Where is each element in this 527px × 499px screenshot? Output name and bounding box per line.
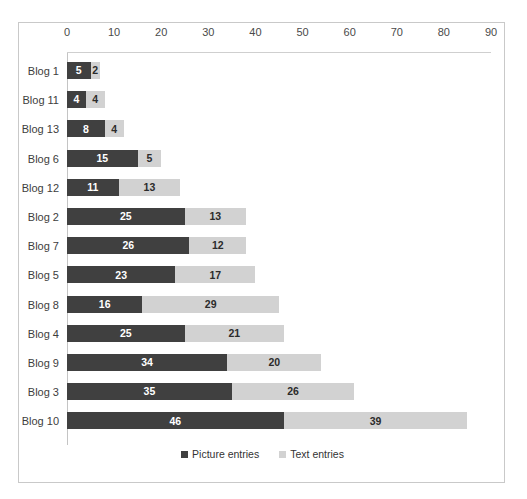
bar-row[interactable]: 2521 [67,325,284,342]
bar-row[interactable]: 44 [67,91,105,108]
bar-segment[interactable]: 21 [185,325,284,342]
bar-segment[interactable]: 16 [67,296,142,313]
bar-row[interactable]: 2513 [67,208,246,225]
bar-value-label: 15 [96,153,108,164]
axis-tick-label: 70 [391,26,403,38]
axis-tick-label: 30 [202,26,214,38]
legend-swatch-icon [279,451,286,458]
bar-value-label: 20 [268,357,280,368]
legend-swatch-icon [181,451,188,458]
bar-value-label: 13 [210,211,222,222]
bar-segment[interactable]: 20 [227,354,321,371]
bar-segment[interactable]: 26 [232,383,354,400]
bar-row[interactable]: 52 [67,62,100,79]
bar-value-label: 5 [76,65,82,76]
bar-segment[interactable]: 29 [142,296,279,313]
bar-segment[interactable]: 12 [189,237,246,254]
category-label: Blog 8 [28,299,59,311]
category-label: Blog 10 [22,415,59,427]
bar-value-label: 4 [92,94,98,105]
bar-row[interactable]: 3420 [67,354,321,371]
bar-value-label: 25 [120,211,132,222]
category-label: Blog 3 [28,386,59,398]
bar-value-label: 23 [115,270,127,281]
axis-tick-label: 90 [485,26,497,38]
value-axis: 0102030405060708090 [19,23,506,53]
bar-row[interactable]: 2317 [67,266,255,283]
bar-segment[interactable]: 5 [67,62,91,79]
axis-tick-label: 40 [249,26,261,38]
axis-tick-label: 20 [155,26,167,38]
axis-tick-label: 50 [296,26,308,38]
bar-segment[interactable]: 23 [67,266,175,283]
axis-tick-label: 60 [344,26,356,38]
category-label: Blog 4 [28,328,59,340]
category-label: Blog 6 [28,153,59,165]
bar-segment[interactable]: 26 [67,237,189,254]
bar-segment[interactable]: 8 [67,120,105,137]
category-label: Blog 9 [28,357,59,369]
legend-item[interactable]: Text entries [279,448,344,460]
bar-segment[interactable]: 2 [91,62,100,79]
bar-segment[interactable]: 13 [119,179,180,196]
bar-row[interactable]: 155 [67,150,161,167]
bar-value-label: 26 [287,386,299,397]
bar-value-label: 21 [228,328,240,339]
bar-segment[interactable]: 11 [67,179,119,196]
bar-value-label: 13 [144,182,156,193]
bar-value-label: 35 [144,386,156,397]
bar-value-label: 17 [210,270,222,281]
bar-value-label: 25 [120,328,132,339]
bar-row[interactable]: 1629 [67,296,279,313]
axis-tick-label: 10 [108,26,120,38]
plot-area: 5244841551113251326122317162925213420352… [67,53,491,453]
chart-frame: 0102030405060708090 Blog 1Blog 11Blog 13… [18,22,505,483]
bar-segment[interactable]: 46 [67,412,284,429]
bar-segment[interactable]: 35 [67,383,232,400]
bar-segment[interactable]: 5 [138,150,162,167]
bar-segment[interactable]: 13 [185,208,246,225]
bar-value-label: 2 [92,65,98,76]
category-label: Blog 7 [28,240,59,252]
bar-segment[interactable]: 17 [175,266,255,283]
bar-segment[interactable]: 4 [86,91,105,108]
bar-value-label: 8 [83,124,89,135]
axis-tick-label: 0 [64,26,70,38]
bar-row[interactable]: 2612 [67,237,246,254]
bar-value-label: 11 [87,182,98,193]
legend-item[interactable]: Picture entries [181,448,259,460]
bar-value-label: 12 [212,240,224,251]
legend-label: Picture entries [192,448,259,460]
category-label: Blog 13 [22,123,59,135]
bar-value-label: 4 [111,124,117,135]
bar-segment[interactable]: 34 [67,354,227,371]
bar-value-label: 16 [99,299,111,310]
bar-row[interactable]: 3526 [67,383,354,400]
bar-segment[interactable]: 4 [105,120,124,137]
bar-value-label: 5 [147,153,153,164]
category-label: Blog 5 [28,269,59,281]
category-axis: Blog 1Blog 11Blog 13Blog 6Blog 12Blog 2B… [19,53,67,453]
bar-value-label: 34 [141,357,153,368]
category-label: Blog 1 [28,65,59,77]
bar-segment[interactable]: 4 [67,91,86,108]
bar-value-label: 29 [205,299,217,310]
legend-label: Text entries [290,448,344,460]
axis-tick-label: 80 [438,26,450,38]
category-label: Blog 2 [28,211,59,223]
category-label: Blog 12 [22,182,59,194]
bar-segment[interactable]: 25 [67,325,185,342]
bar-value-label: 4 [74,94,80,105]
bar-value-label: 46 [170,416,182,427]
bar-segment[interactable]: 15 [67,150,138,167]
bar-row[interactable]: 4639 [67,412,467,429]
bar-segment[interactable]: 25 [67,208,185,225]
bar-row[interactable]: 1113 [67,179,180,196]
chart-legend: Picture entriesText entries [19,448,506,460]
bar-row[interactable]: 84 [67,120,124,137]
category-label: Blog 11 [23,94,60,106]
bar-segment[interactable]: 39 [284,412,468,429]
clipped-title-remnant [0,0,527,12]
bar-value-label: 39 [370,416,382,427]
bar-value-label: 26 [122,240,134,251]
